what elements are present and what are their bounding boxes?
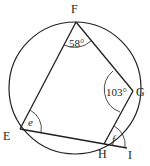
angle-label-G: 103° <box>106 86 127 98</box>
cyclic-quadrilateral-diagram: F G H E I 58° 103° e f <box>0 0 150 166</box>
point-label-H: H <box>98 147 107 161</box>
side-EF <box>20 22 76 129</box>
point-label-E: E <box>3 129 10 143</box>
angle-label-e: e <box>28 116 33 128</box>
point-label-I: I <box>128 148 132 162</box>
side-FG <box>76 22 133 91</box>
point-label-G: G <box>136 85 145 99</box>
point-label-F: F <box>71 2 78 16</box>
side-GH <box>104 91 133 144</box>
angle-label-F: 58° <box>69 37 84 49</box>
